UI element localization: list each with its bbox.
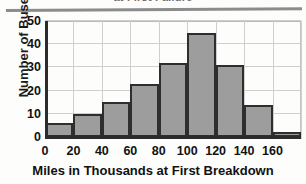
x-tick-label: 160 (258, 145, 288, 158)
histogram-bar (45, 123, 73, 137)
y-tick-label: 10 (11, 108, 41, 121)
histogram-figure: at First Failure Number of Buses 0102030… (0, 0, 306, 184)
plot-frame-top (45, 21, 301, 22)
histogram-bar (73, 114, 101, 137)
histogram-bar (187, 33, 215, 137)
x-tick-label: 80 (144, 145, 174, 158)
y-tick-label: 0 (11, 131, 41, 144)
x-tick-label: 100 (172, 145, 202, 158)
x-tick-label: 20 (58, 145, 88, 158)
x-tick-label: 40 (87, 145, 117, 158)
x-tick-label: 0 (30, 145, 60, 158)
gridline-vertical (301, 21, 302, 139)
chart-title-cropped: at First Failure (0, 0, 306, 7)
y-axis-title: Number of Buses (16, 0, 31, 109)
plot-area (45, 21, 301, 139)
header-divider (6, 7, 302, 12)
y-axis-line (45, 21, 48, 139)
histogram-bar (130, 84, 158, 137)
histogram-bar (244, 105, 272, 137)
x-tick-label: 120 (201, 145, 231, 158)
histogram-bar (102, 102, 130, 137)
gridline-vertical (273, 21, 274, 139)
x-axis-title: Miles in Thousands at First Breakdown (0, 163, 306, 178)
x-axis-line (45, 136, 301, 139)
gridline-horizontal (45, 20, 301, 21)
histogram-bar (159, 63, 187, 137)
x-tick-label: 60 (115, 145, 145, 158)
histogram-bar (216, 65, 244, 137)
x-tick-label: 140 (229, 145, 259, 158)
chart-title-text: at First Failure (0, 0, 306, 3)
gridline-horizontal (45, 43, 301, 44)
